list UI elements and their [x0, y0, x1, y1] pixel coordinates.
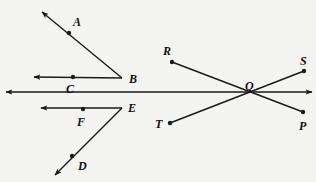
point-dot-a	[67, 31, 71, 35]
point-label-c: C	[66, 83, 74, 95]
point-label-p: P	[299, 120, 306, 132]
point-label-s: S	[300, 55, 307, 67]
segment-TS	[170, 71, 304, 123]
point-label-a: A	[73, 16, 81, 28]
point-label-f: F	[77, 116, 85, 128]
point-dot-r	[170, 60, 174, 64]
ray-BC	[34, 77, 122, 78]
point-dot-c	[71, 75, 75, 79]
segment-RP	[172, 62, 303, 112]
point-label-b: B	[129, 73, 137, 85]
ray-BA	[42, 12, 122, 78]
point-label-r: R	[163, 45, 171, 57]
point-label-e: E	[128, 102, 136, 114]
point-dot-t	[168, 121, 172, 125]
point-label-q: Q	[245, 80, 254, 92]
point-dot-d	[70, 154, 74, 158]
ray-ED	[55, 108, 122, 175]
point-label-d: D	[78, 160, 87, 172]
geometry-diagram: A B C D E F P Q R S T	[0, 0, 316, 182]
point-layer	[67, 31, 306, 158]
segment-layer	[6, 12, 312, 175]
point-dot-f	[81, 107, 85, 111]
geometry-canvas	[0, 0, 316, 182]
point-dot-p	[301, 110, 305, 114]
point-label-t: T	[155, 118, 162, 130]
point-dot-s	[302, 69, 306, 73]
